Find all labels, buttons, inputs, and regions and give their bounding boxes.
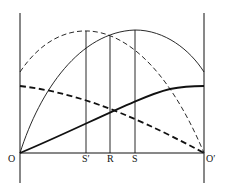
thick-dashed-curve: [20, 86, 204, 153]
s-label: S: [132, 153, 138, 164]
diagram-canvas: O O′ S′ R S: [0, 0, 227, 195]
thin-solid-parabola: [20, 30, 204, 153]
origin-right-label: O′: [206, 153, 215, 164]
s-prime-label: S′: [82, 153, 90, 164]
origin-left-label: O: [8, 153, 15, 164]
r-label: R: [107, 153, 114, 164]
thick-solid-curve: [20, 86, 204, 153]
